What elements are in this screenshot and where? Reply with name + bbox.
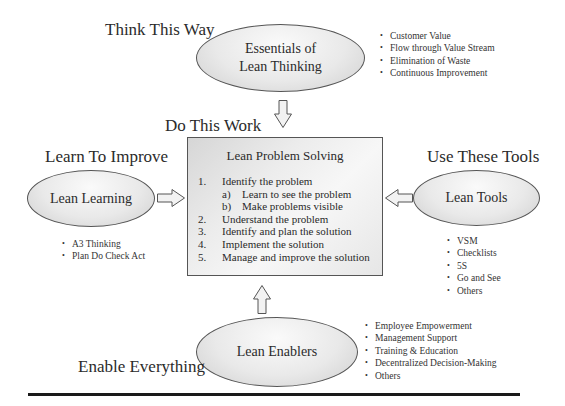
bottom-divider — [28, 393, 520, 396]
list-item: Checklists — [447, 247, 501, 259]
step-subitem: b)Make problems visible — [198, 200, 370, 213]
node-label-line1: Essentials of — [239, 40, 322, 58]
essentials-bullet-list: Customer Value Flow through Value Stream… — [380, 30, 495, 80]
node-lean-enablers: Lean Enablers — [196, 317, 358, 387]
step-item: 2.Understand the problem — [198, 213, 370, 226]
step-subitem: a)Learn to see the problem — [198, 188, 370, 201]
node-lean-learning: Lean Learning — [27, 170, 155, 227]
node-label: Lean Learning — [50, 190, 132, 208]
heading-think-this-way: Think This Way — [105, 20, 214, 40]
step-item: 3.Identify and plan the solution — [198, 225, 370, 238]
step-item: 5.Manage and improve the solution — [198, 251, 370, 264]
list-item: Training & Education — [365, 345, 497, 357]
list-item: Continuous Improvement — [380, 67, 495, 79]
list-item: 5S — [447, 260, 501, 272]
node-essentials-of-lean-thinking: Essentials of Lean Thinking — [196, 24, 365, 92]
step-item: 1.Identify the problem — [198, 175, 370, 188]
node-lean-tools: Lean Tools — [413, 170, 540, 226]
arrow-up-icon — [253, 285, 271, 314]
node-label-line2: Lean Thinking — [239, 58, 322, 76]
lean-tools-bullet-list: VSM Checklists 5S Go and See Others — [447, 235, 501, 297]
list-item: Go and See — [447, 272, 501, 284]
node-label: Lean Tools — [445, 189, 507, 207]
box-title: Lean Problem Solving — [188, 148, 382, 164]
list-item: Employee Empowerment — [365, 320, 497, 332]
list-item: Management Support — [365, 332, 497, 344]
step-item: 4.Implement the solution — [198, 238, 370, 251]
arrow-right-icon — [157, 189, 185, 207]
arrow-down-icon — [274, 100, 292, 128]
heading-enable-everything: Enable Everything — [78, 357, 205, 377]
list-item: Others — [447, 285, 501, 297]
lean-learning-bullet-list: A3 Thinking Plan Do Check Act — [62, 238, 145, 263]
list-item: A3 Thinking — [62, 238, 145, 250]
list-item: Others — [365, 370, 497, 382]
list-item: Plan Do Check Act — [62, 250, 145, 262]
list-item: Elimination of Waste — [380, 55, 495, 67]
lean-problem-solving-box: Lean Problem Solving 1.Identify the prob… — [187, 137, 383, 276]
node-label: Lean Enablers — [237, 343, 317, 361]
list-item: VSM — [447, 235, 501, 247]
lean-enablers-bullet-list: Employee Empowerment Management Support … — [365, 320, 497, 382]
heading-use-these-tools: Use These Tools — [427, 147, 539, 167]
list-item: Flow through Value Stream — [380, 42, 495, 54]
heading-learn-to-improve: Learn To Improve — [45, 147, 168, 167]
list-item: Customer Value — [380, 30, 495, 42]
problem-solving-steps: 1.Identify the problem a)Learn to see th… — [198, 175, 370, 263]
heading-do-this-work: Do This Work — [165, 116, 261, 136]
list-item: Decentralized Decision-Making — [365, 357, 497, 369]
arrow-left-icon — [385, 189, 413, 207]
